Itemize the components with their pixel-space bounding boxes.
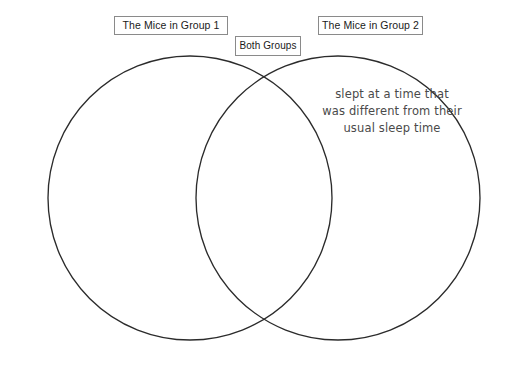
label-group-1: The Mice in Group 1 bbox=[114, 16, 228, 35]
region-left-only[interactable] bbox=[55, 120, 185, 270]
venn-diagram-canvas: The Mice in Group 1 Both Groups The Mice… bbox=[0, 0, 522, 365]
region-overlap[interactable] bbox=[205, 120, 323, 270]
label-both-groups: Both Groups bbox=[235, 36, 301, 56]
region-right-only-text[interactable]: slept at a time that was different from … bbox=[318, 86, 466, 137]
label-group-2: The Mice in Group 2 bbox=[318, 16, 423, 35]
